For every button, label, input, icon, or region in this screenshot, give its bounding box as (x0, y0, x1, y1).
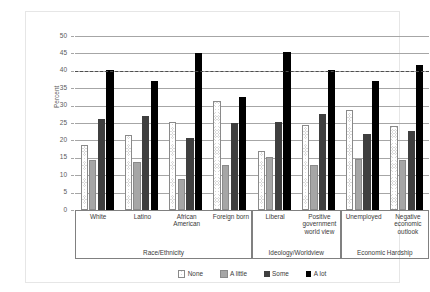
bar (408, 131, 415, 210)
category-label: Positivegovernmentworld view (297, 213, 341, 235)
bar (266, 157, 273, 210)
y-tick-mark (71, 88, 74, 89)
bar-group (385, 36, 429, 210)
bar-group (252, 36, 296, 210)
bar (151, 81, 158, 210)
supergroup-label: Economic Hardship (342, 249, 429, 256)
bar (363, 134, 370, 210)
category-label: AfricanAmerican (165, 213, 209, 228)
reference-line (75, 71, 429, 72)
y-tick-mark (71, 106, 74, 107)
legend-item[interactable]: A lot (306, 271, 326, 277)
y-tick-mark (71, 123, 74, 124)
bar (178, 179, 185, 210)
y-axis-tick-label: 35 (45, 85, 67, 92)
bar (125, 135, 132, 210)
bar (346, 110, 353, 210)
legend-swatch-icon (306, 271, 312, 277)
bar-group (164, 36, 208, 210)
bar (81, 145, 88, 210)
legend-swatch-icon (264, 271, 270, 277)
bar (106, 70, 113, 210)
bar (302, 125, 309, 210)
category-label: Latino (120, 213, 164, 220)
category-label: Unemployed (342, 213, 386, 220)
category-axis-table: WhiteLatinoAfricanAmericanForeign bornRa… (75, 211, 429, 259)
y-tick-mark (71, 175, 74, 176)
legend-item[interactable]: A little (220, 270, 247, 278)
y-axis-tick-label: 20 (45, 137, 67, 144)
supergroup-label: Ideology/Worldview (253, 249, 340, 256)
bar (195, 53, 202, 210)
bar (399, 160, 406, 210)
supergroup-cell: WhiteLatinoAfricanAmericanForeign bornRa… (75, 211, 252, 259)
y-tick-mark (71, 53, 74, 54)
bar (416, 65, 423, 210)
supergroup-cell: UnemployedNegativeeconomicoutlookEconomi… (341, 211, 430, 259)
y-axis-tick-label: 10 (45, 172, 67, 179)
bar (186, 138, 193, 210)
legend-item[interactable]: Some (264, 271, 289, 277)
y-axis-tick-label: 5 (45, 189, 67, 196)
bar (98, 119, 105, 210)
bar (239, 97, 246, 210)
bar (89, 160, 96, 210)
y-axis-tick-label: 25 (45, 120, 67, 127)
legend-item[interactable]: None (178, 270, 203, 278)
bar (275, 122, 282, 210)
bar (372, 81, 379, 210)
y-tick-mark (71, 193, 74, 194)
bar (355, 159, 362, 210)
bar (283, 52, 290, 210)
category-label: Negativeeconomicoutlook (386, 213, 430, 235)
bar-group (208, 36, 252, 210)
bar (169, 122, 176, 210)
bar-group (296, 36, 340, 210)
y-axis-tick-label: 45 (45, 50, 67, 57)
legend-swatch-icon (220, 270, 228, 278)
chart-frame: Percent 05101520253035404550 WhiteLatino… (25, 11, 400, 283)
chart-legend: NoneA littleSomeA lot (75, 268, 429, 280)
legend-label: A lot (314, 271, 326, 277)
supergroup-label: Race/Ethnicity (76, 249, 251, 256)
bar-group (119, 36, 163, 210)
bar (222, 165, 229, 210)
category-label: White (76, 213, 120, 220)
y-axis-tick-label: 50 (45, 33, 67, 40)
bar (142, 116, 149, 210)
y-axis-tick-label: 15 (45, 154, 67, 161)
y-axis-tick-label: 40 (45, 67, 67, 74)
legend-label: A little (230, 271, 247, 277)
bar (310, 165, 317, 210)
y-tick-mark (71, 140, 74, 141)
bar-group (341, 36, 385, 210)
y-tick-mark (71, 36, 74, 37)
legend-label: None (188, 271, 203, 277)
bar-group (75, 36, 119, 210)
bar (390, 126, 397, 210)
y-axis-tick-label: 30 (45, 102, 67, 109)
legend-label: Some (272, 271, 289, 277)
supergroup-cell: LiberalPositivegovernmentworld viewIdeol… (252, 211, 341, 259)
bar (213, 101, 220, 210)
bar (328, 70, 335, 210)
legend-swatch-icon (178, 270, 186, 278)
bar (258, 151, 265, 210)
y-tick-mark (71, 158, 74, 159)
y-tick-mark (71, 210, 74, 211)
y-tick-mark (71, 71, 74, 72)
bar (319, 114, 326, 210)
category-label: Liberal (253, 213, 297, 220)
category-label: Foreign born (209, 213, 253, 220)
bar (231, 123, 238, 210)
y-axis-tick-label: 0 (45, 207, 67, 214)
plot-area: 05101520253035404550 (75, 36, 429, 210)
bar (133, 162, 140, 210)
